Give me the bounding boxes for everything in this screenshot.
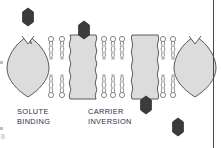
caption-solute-binding: SOLUTE BINDING bbox=[17, 107, 50, 127]
scan-artifact-left-bottom bbox=[1, 134, 5, 139]
scan-artifact-left-upper bbox=[0, 61, 3, 64]
carrier-transport-figure: SOLUTE BINDING CARRIER INVERSION bbox=[0, 0, 221, 148]
carrier-protein-loaded bbox=[69, 35, 97, 99]
caption-carrier-inversion-line1: CARRIER bbox=[88, 107, 132, 117]
caption-solute-binding-line2: BINDING bbox=[17, 117, 50, 127]
solute-molecule-unbound-extracellular bbox=[23, 8, 34, 26]
caption-carrier-inversion-line2: INVERSION bbox=[88, 117, 132, 127]
solute-molecule-bound-inner bbox=[141, 96, 152, 114]
page-border-right bbox=[213, 0, 214, 148]
caption-solute-binding-line1: SOLUTE bbox=[17, 107, 50, 117]
solute-molecule-released-intracellular bbox=[173, 118, 184, 136]
solute-molecule-bound-outer bbox=[79, 21, 90, 39]
carrier-protein-inverted bbox=[131, 35, 158, 99]
scan-artifact-left-lower bbox=[0, 127, 3, 130]
caption-carrier-inversion: CARRIER INVERSION bbox=[88, 107, 132, 127]
